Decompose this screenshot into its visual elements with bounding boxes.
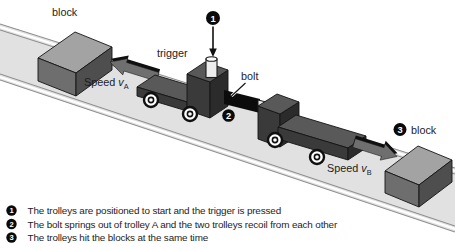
legend-item-2: 2 The bolt springs out of trolley A and …	[6, 219, 338, 230]
trigger-cylinder-cap	[206, 57, 217, 62]
wheel-hub	[272, 137, 277, 142]
trolley-a-wheel-rear	[144, 93, 158, 107]
label-bolt: bolt	[241, 70, 258, 82]
legend-badge-2-number: 2	[9, 220, 13, 229]
legend-item-1: 1 The trolleys are positioned to start a…	[6, 205, 281, 216]
label-trigger: trigger	[157, 47, 188, 59]
wheel-hub	[148, 97, 153, 102]
marker-1-pointer-arrowhead-icon	[209, 49, 217, 58]
label-block-right: block	[411, 124, 437, 136]
label-block-left: block	[52, 6, 78, 18]
trigger-cylinder	[206, 57, 217, 78]
trolley-b-wheel-front	[310, 150, 324, 164]
legend: 1 The trolleys are positioned to start a…	[6, 205, 338, 243]
marker-3-number: 3	[397, 125, 402, 135]
marker-1: 1	[206, 11, 220, 57]
legend-badge-3-number: 3	[9, 233, 13, 242]
recoiling-trolleys-diagram: 1 2 3 block trigger bolt SpeedvA SpeedvB…	[0, 0, 455, 251]
wheel-hub	[187, 111, 192, 116]
trolley-a-wheel-front	[183, 107, 197, 121]
trolley-b-wheel-rear	[268, 133, 282, 147]
diagram-canvas: 1 2 3 block trigger bolt SpeedvA SpeedvB…	[0, 0, 455, 251]
legend-text-3: The trolleys hit the blocks at the same …	[28, 232, 209, 243]
legend-item-3: 3 The trolleys hit the blocks at the sam…	[6, 232, 208, 243]
wheel-hub	[314, 154, 319, 159]
marker-3: 3	[394, 123, 407, 136]
label-bolt-group: bolt	[232, 70, 259, 96]
marker-2: 2	[222, 109, 235, 122]
marker-1-number: 1	[210, 14, 215, 24]
legend-text-2: The bolt springs out of trolley A and th…	[28, 219, 338, 230]
marker-2-number: 2	[226, 111, 231, 121]
legend-text-1: The trolleys are positioned to start and…	[28, 205, 281, 216]
